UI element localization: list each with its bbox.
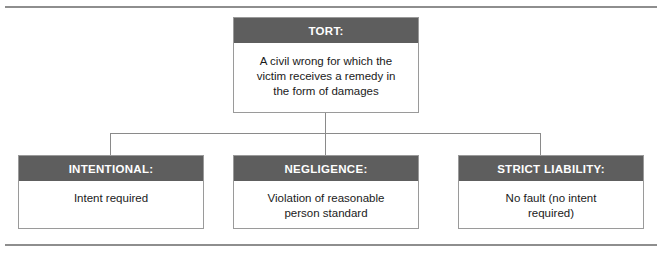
node-negligence: NEGLIGENCE: Violation of reasonable pers… [233,155,419,229]
connector-drop-intentional [110,133,111,155]
node-tort: TORT: A civil wrong for which the victim… [233,17,419,113]
node-intentional: INTENTIONAL: Intent required [18,155,204,229]
node-strict-liability: STRICT LIABILITY: No fault (no intent re… [458,155,644,229]
node-negligence-description: Violation of reasonable person standard [234,181,418,228]
node-negligence-title: NEGLIGENCE: [234,156,418,181]
tort-classification-diagram: TORT: A civil wrong for which the victim… [0,0,662,254]
connector-root-stem [325,113,326,155]
bottom-divider-rule [5,244,657,246]
node-strict-liability-description: No fault (no intent required) [459,181,643,228]
top-divider-rule [5,6,657,8]
connector-horizontal-bar [110,133,541,134]
node-tort-title: TORT: [234,18,418,43]
node-intentional-description: Intent required [19,181,203,228]
connector-drop-strict [540,133,541,155]
node-intentional-title: INTENTIONAL: [19,156,203,181]
node-strict-liability-title: STRICT LIABILITY: [459,156,643,181]
node-tort-description: A civil wrong for which the victim recei… [234,43,418,112]
